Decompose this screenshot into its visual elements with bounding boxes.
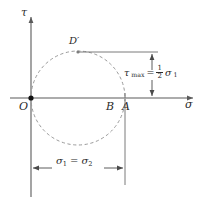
- sigma-left-subscript: 1: [63, 160, 67, 168]
- taumax-variable: σ: [165, 68, 172, 78]
- fraction-denominator: 2: [156, 72, 162, 80]
- point-dprime-label: D′: [69, 36, 79, 46]
- mohr-circle-drawing: [0, 0, 203, 202]
- taumax-symbol: τ: [124, 68, 129, 78]
- point-dprime-marker: [76, 50, 79, 53]
- sigma-equality-annotation: σ1=σ2: [56, 156, 92, 166]
- one-half-fraction: 1 2: [156, 65, 162, 81]
- point-o-label: O: [19, 101, 28, 112]
- point-a-label: A: [122, 101, 130, 112]
- taumax-equals: =: [146, 68, 154, 78]
- sigma-equals: =: [67, 155, 81, 166]
- taumax-annotation: τmax = 1 2 σ1: [124, 65, 177, 81]
- tau-axis-label: τ: [21, 7, 27, 18]
- taumax-subscript: max: [131, 72, 144, 78]
- sigma-right-subscript: 2: [88, 160, 92, 168]
- point-b-label: B: [106, 101, 114, 112]
- point-o-marker: [28, 95, 33, 100]
- sigma-left-variable: σ: [56, 155, 63, 166]
- taumax-variable-subscript: 1: [173, 72, 177, 78]
- mohrs-circle-figure: τ σ O B A D′ τmax = 1 2 σ1 σ1=σ2: [0, 0, 203, 202]
- fraction-numerator: 1: [156, 65, 162, 72]
- sigma-axis-label: σ: [185, 99, 193, 110]
